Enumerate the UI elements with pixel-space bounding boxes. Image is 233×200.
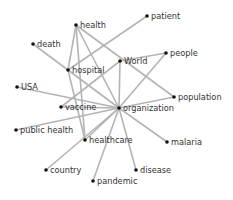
node-label: healthcare (89, 135, 133, 145)
node-label: disease (140, 165, 171, 175)
node-usa[interactable]: USA (15, 82, 38, 92)
node-disease[interactable]: disease (134, 165, 171, 175)
node-label: death (37, 39, 61, 49)
edge-world-organization (119, 61, 120, 108)
node-dot-icon (15, 85, 19, 89)
node-patient[interactable]: patient (145, 11, 181, 21)
node-country[interactable]: country (44, 165, 81, 175)
network-graph: healthpatientdeathWorldpeoplehospitalUSA… (0, 0, 233, 200)
node-label: pandemic (97, 176, 137, 186)
node-people[interactable]: people (164, 48, 198, 58)
node-healthcare[interactable]: healthcare (83, 135, 132, 145)
node-organization[interactable]: organization (117, 103, 174, 113)
node-dot-icon (74, 23, 78, 27)
node-label: health (80, 20, 106, 30)
node-label: World (124, 56, 147, 66)
node-dot-icon (145, 14, 149, 18)
edge-health-hospital (68, 25, 76, 70)
node-label: organization (123, 103, 174, 113)
node-label: people (170, 48, 198, 58)
node-population[interactable]: population (172, 92, 221, 102)
node-health[interactable]: health (74, 20, 106, 30)
node-dot-icon (164, 51, 168, 55)
node-dot-icon (118, 59, 122, 63)
node-label: country (50, 165, 81, 175)
node-label: hospital (72, 65, 104, 75)
node-malaria[interactable]: malaria (165, 137, 202, 147)
node-label: patient (151, 11, 181, 21)
node-dot-icon (59, 105, 63, 109)
node-dot-icon (31, 42, 35, 46)
node-label: USA (21, 82, 38, 92)
node-hospital[interactable]: hospital (66, 65, 104, 75)
node-dot-icon (172, 95, 176, 99)
node-label: population (178, 92, 222, 102)
node-dot-icon (14, 128, 18, 132)
node-label: public health (20, 125, 73, 135)
node-dot-icon (66, 68, 70, 72)
node-label: malaria (171, 137, 202, 147)
node-dot-icon (83, 138, 87, 142)
node-dot-icon (44, 168, 48, 172)
node-dot-icon (117, 106, 121, 110)
node-vaccine[interactable]: vaccine (59, 102, 96, 112)
node-public-health[interactable]: public health (14, 125, 73, 135)
node-dot-icon (91, 179, 95, 183)
nodes-layer: healthpatientdeathWorldpeoplehospitalUSA… (14, 11, 221, 186)
node-label: vaccine (65, 102, 96, 112)
node-dot-icon (134, 168, 138, 172)
node-dot-icon (165, 140, 169, 144)
node-pandemic[interactable]: pandemic (91, 176, 137, 186)
node-death[interactable]: death (31, 39, 60, 49)
